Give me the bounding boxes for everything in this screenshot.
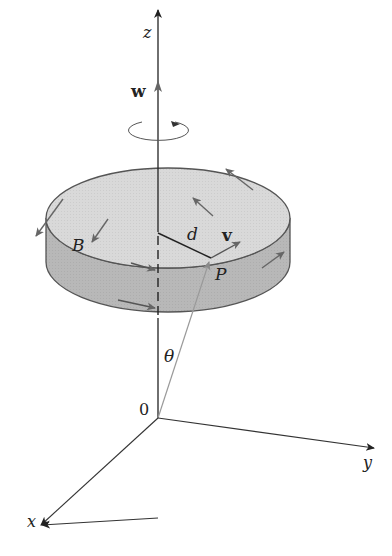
origin-label: 0 — [139, 402, 149, 418]
angle-label: θ — [164, 348, 174, 365]
x-axis-line-2 — [41, 418, 158, 525]
body-label: B — [72, 237, 85, 254]
diagram-canvas: z w B d v P θ 0 y x — [0, 0, 392, 556]
distance-label: d — [187, 226, 198, 243]
x-axis-label: x — [27, 514, 36, 530]
velocity-label: v — [222, 227, 232, 244]
y-axis-line — [158, 418, 374, 448]
z-axis-label: z — [143, 25, 151, 41]
diagram-svg — [0, 0, 392, 556]
angular-velocity-label: w — [131, 83, 146, 100]
y-axis-label: y — [363, 455, 372, 471]
point-label: P — [215, 266, 226, 283]
x-axis — [42, 518, 158, 525]
